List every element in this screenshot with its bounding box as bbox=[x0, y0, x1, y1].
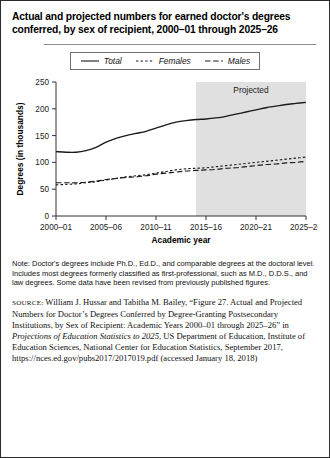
note-text: Doctor's degrees include Ph.D., Ed.D., a… bbox=[12, 259, 314, 287]
x-axis-tick-label: 2010–11 bbox=[140, 223, 172, 232]
figure-container: Actual and projected numbers for earned … bbox=[0, 0, 330, 458]
legend-item-total[interactable]: Total bbox=[80, 56, 122, 66]
legend-item-females[interactable]: Females bbox=[135, 56, 191, 66]
x-axis-tick-label: 2005–06 bbox=[90, 223, 122, 232]
line-chart-svg: Projected0501001502002502000–012005–0620… bbox=[12, 72, 318, 254]
source-text-italic: Projections of Education Statistics to 2… bbox=[12, 331, 159, 341]
projected-label: Projected bbox=[233, 85, 269, 95]
x-axis-tick-label: 2025–26 bbox=[290, 223, 318, 232]
note-label: Note: bbox=[12, 259, 30, 268]
x-axis-title: Academic year bbox=[151, 235, 211, 245]
figure-note: Note: Doctor's degrees include Ph.D., Ed… bbox=[12, 259, 318, 288]
legend-label-females: Females bbox=[159, 56, 191, 66]
y-axis-tick-label: 150 bbox=[35, 132, 49, 141]
source-label: SOURCE: bbox=[12, 299, 43, 307]
source-text-part1: William J. Hussar and Tabitha M. Bailey,… bbox=[12, 297, 302, 330]
y-axis-tick-label: 50 bbox=[40, 185, 50, 194]
title-divider bbox=[44, 44, 316, 45]
figure-title: Actual and projected numbers for earned … bbox=[12, 11, 318, 36]
legend-swatch-dotted-icon bbox=[135, 57, 155, 65]
y-axis-tick-label: 100 bbox=[35, 159, 49, 168]
y-axis-tick-label: 0 bbox=[44, 212, 49, 221]
y-axis-tick-label: 250 bbox=[35, 78, 49, 87]
legend-swatch-solid-icon bbox=[80, 57, 100, 65]
y-axis-tick-label: 200 bbox=[35, 105, 49, 114]
x-axis-tick-label: 2015–16 bbox=[190, 223, 222, 232]
legend-label-males: Males bbox=[228, 56, 250, 66]
x-axis-tick-label: 2020–21 bbox=[240, 223, 272, 232]
chart-plot: Projected0501001502002502000–012005–0620… bbox=[12, 72, 318, 254]
y-axis-title: Degrees (in thousands) bbox=[15, 102, 25, 195]
legend-wrapper: Total Females Males bbox=[12, 52, 318, 70]
x-axis-tick-label: 2000–01 bbox=[40, 223, 72, 232]
legend-label-total: Total bbox=[104, 56, 122, 66]
chart-legend: Total Females Males bbox=[70, 52, 260, 70]
figure-source: SOURCE: William J. Hussar and Tabitha M.… bbox=[12, 297, 318, 363]
legend-item-males[interactable]: Males bbox=[204, 56, 250, 66]
legend-swatch-dashed-icon bbox=[204, 57, 224, 65]
projected-region bbox=[196, 82, 306, 216]
